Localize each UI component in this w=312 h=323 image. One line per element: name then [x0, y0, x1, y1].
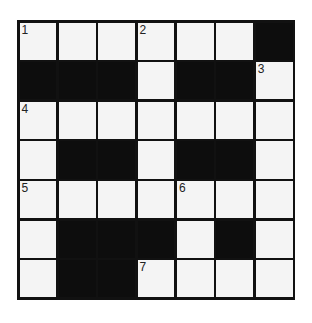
answer-cell[interactable] — [98, 23, 135, 60]
clue-number: 3 — [258, 63, 265, 75]
black-cell — [216, 141, 253, 178]
black-cell — [98, 221, 135, 258]
black-cell — [177, 62, 214, 99]
answer-cell[interactable] — [138, 181, 175, 218]
crossword-grid: 1234567 — [17, 20, 295, 300]
black-cell — [59, 62, 96, 99]
answer-cell[interactable] — [138, 141, 175, 178]
answer-cell[interactable]: 1 — [20, 23, 57, 60]
answer-cell[interactable] — [256, 221, 293, 258]
black-cell — [216, 62, 253, 99]
answer-cell[interactable] — [177, 102, 214, 139]
answer-cell[interactable] — [256, 141, 293, 178]
clue-number: 1 — [22, 24, 29, 36]
clue-number: 7 — [140, 261, 147, 273]
answer-cell[interactable]: 4 — [20, 102, 57, 139]
black-cell — [20, 62, 57, 99]
black-cell — [98, 260, 135, 297]
black-cell — [177, 141, 214, 178]
answer-cell[interactable]: 2 — [138, 23, 175, 60]
answer-cell[interactable] — [20, 260, 57, 297]
answer-cell[interactable] — [216, 181, 253, 218]
answer-cell[interactable] — [177, 260, 214, 297]
answer-cell[interactable] — [138, 62, 175, 99]
answer-cell[interactable]: 3 — [256, 62, 293, 99]
black-cell — [216, 221, 253, 258]
answer-cell[interactable] — [98, 102, 135, 139]
answer-cell[interactable] — [59, 23, 96, 60]
answer-cell[interactable] — [138, 102, 175, 139]
black-cell — [59, 221, 96, 258]
answer-cell[interactable] — [59, 181, 96, 218]
clue-number: 4 — [22, 103, 29, 115]
black-cell — [256, 23, 293, 60]
answer-cell[interactable] — [177, 221, 214, 258]
answer-cell[interactable]: 7 — [138, 260, 175, 297]
answer-cell[interactable]: 6 — [177, 181, 214, 218]
answer-cell[interactable] — [256, 260, 293, 297]
answer-cell[interactable] — [20, 141, 57, 178]
clue-number: 2 — [140, 24, 147, 36]
clue-number: 5 — [22, 182, 29, 194]
black-cell — [59, 141, 96, 178]
black-cell — [138, 221, 175, 258]
answer-cell[interactable]: 5 — [20, 181, 57, 218]
answer-cell[interactable] — [256, 102, 293, 139]
answer-cell[interactable] — [59, 102, 96, 139]
answer-cell[interactable] — [216, 102, 253, 139]
clue-number: 6 — [179, 182, 186, 194]
black-cell — [59, 260, 96, 297]
answer-cell[interactable] — [216, 23, 253, 60]
black-cell — [98, 62, 135, 99]
answer-cell[interactable] — [216, 260, 253, 297]
answer-cell[interactable] — [20, 221, 57, 258]
answer-cell[interactable] — [177, 23, 214, 60]
answer-cell[interactable] — [256, 181, 293, 218]
answer-cell[interactable] — [98, 181, 135, 218]
black-cell — [98, 141, 135, 178]
